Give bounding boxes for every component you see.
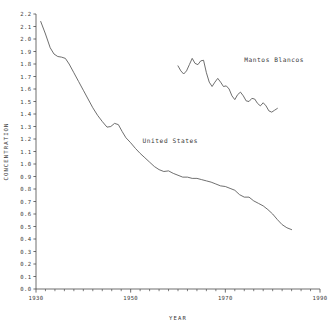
series-label-0: United States: [143, 137, 199, 144]
x-axis-title: YEAR: [169, 315, 187, 321]
y-tick-label: 2.0: [20, 36, 31, 42]
line-chart: 0.00.10.20.30.40.50.60.70.80.91.01.11.21…: [0, 0, 336, 327]
y-tick-label: 1.1: [20, 149, 31, 155]
y-tick-label: 2.2: [20, 11, 31, 17]
y-tick-label: 1.9: [20, 49, 31, 55]
y-tick-label: 1.7: [20, 74, 31, 80]
y-tick-label: 1.3: [20, 124, 31, 130]
y-tick-label: 0.9: [20, 174, 31, 180]
y-axis-title: CONCENTRATION: [3, 122, 9, 180]
y-axis: 0.00.10.20.30.40.50.60.70.80.91.01.11.21…: [20, 11, 36, 292]
y-tick-label: 0.3: [20, 249, 31, 255]
y-tick-label: 0.4: [20, 236, 31, 242]
series-label-1: Mantos Blancos: [244, 56, 304, 63]
y-tick-label: 1.8: [20, 61, 31, 67]
series-layer: [41, 22, 292, 230]
series-line-1: [178, 58, 277, 112]
y-tick-label: 2.1: [20, 24, 31, 30]
y-tick-label: 1.0: [20, 161, 31, 167]
series-line-0: [41, 22, 292, 230]
y-tick-label: 1.5: [20, 99, 31, 105]
y-tick-label: 0.1: [20, 274, 31, 280]
y-tick-label: 0.2: [20, 261, 31, 267]
x-tick-label: 1950: [123, 295, 138, 301]
y-tick-label: 1.2: [20, 136, 31, 142]
y-tick-label: 0.7: [20, 199, 31, 205]
chart-container: 0.00.10.20.30.40.50.60.70.80.91.01.11.21…: [0, 0, 336, 327]
x-tick-label: 1970: [218, 295, 233, 301]
series-annotations: United StatesMantos Blancos: [143, 56, 305, 144]
y-tick-label: 0.8: [20, 186, 31, 192]
x-tick-label: 1930: [29, 295, 44, 301]
x-tick-label: 1990: [313, 295, 328, 301]
x-axis: 1930195019701990: [29, 289, 328, 301]
y-tick-label: 1.4: [20, 111, 31, 117]
y-tick-label: 0.6: [20, 211, 31, 217]
y-tick-label: 0.5: [20, 224, 31, 230]
y-tick-label: 1.6: [20, 86, 31, 92]
y-tick-label: 0.0: [20, 286, 31, 292]
